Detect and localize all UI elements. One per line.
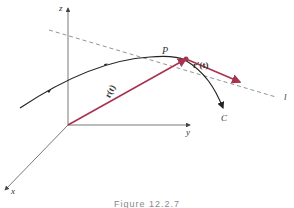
z-axis-label: z (58, 3, 63, 13)
figure-caption: Figure 12.2.7 (0, 199, 294, 208)
position-vector-label: r(t) (103, 83, 118, 99)
position-vector (68, 59, 186, 125)
curve-c-label: C (221, 113, 228, 123)
x-axis-label: x (10, 186, 15, 196)
y-axis-label: y (185, 127, 190, 137)
point-p (184, 57, 189, 62)
tangent-line (49, 30, 276, 97)
point-p-label: P (161, 45, 168, 56)
diagram-canvas: z y x P r(t) r′(t) C l (0, 0, 294, 208)
x-axis (5, 125, 68, 190)
tangent-line-label: l (284, 92, 287, 102)
tangent-vector-label: r′(t) (193, 60, 209, 70)
